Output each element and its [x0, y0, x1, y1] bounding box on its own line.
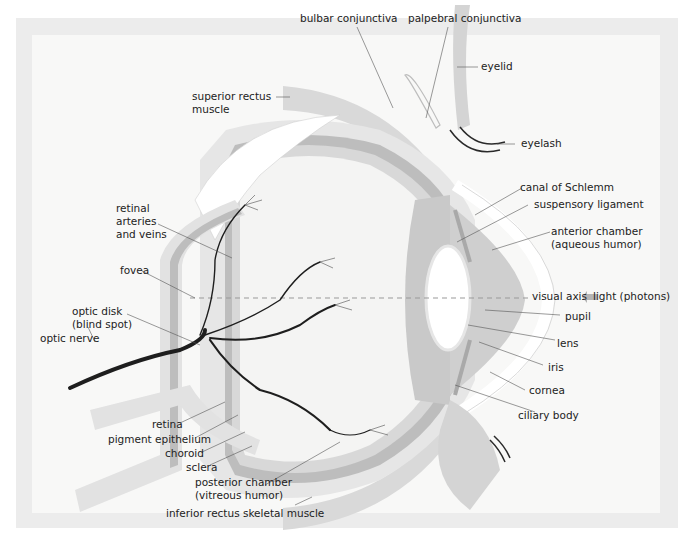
- label-optic-disk: optic disk (blind spot): [72, 305, 132, 331]
- eye-diagram: [0, 0, 693, 553]
- label-optic-nerve: optic nerve: [40, 332, 99, 345]
- label-pupil: pupil: [565, 310, 591, 323]
- label-retinal-vessels: retinal arteries and veins: [116, 202, 167, 241]
- label-bulbar-conjunctiva: bulbar conjunctiva: [300, 12, 398, 25]
- eyelash-upper: [450, 130, 500, 152]
- label-retina: retina: [152, 418, 183, 431]
- label-pigment-epithelium: pigment epithelium: [108, 433, 211, 446]
- label-light: light (photons): [593, 290, 670, 303]
- lower-eyelid: [438, 400, 500, 510]
- label-choroid: choroid: [165, 447, 204, 460]
- label-superior-rectus: superior rectus muscle: [192, 90, 271, 116]
- label-sclera: sclera: [186, 461, 217, 474]
- label-eyelash: eyelash: [521, 137, 562, 150]
- label-lens: lens: [557, 337, 579, 350]
- label-canal-of-schlemm: canal of Schlemm: [520, 181, 614, 194]
- label-eyelid: eyelid: [481, 60, 513, 73]
- label-cornea: cornea: [529, 384, 565, 397]
- label-suspensory-ligament: suspensory ligament: [534, 198, 644, 211]
- label-ciliary-body: ciliary body: [518, 409, 579, 422]
- label-fovea: fovea: [120, 264, 149, 277]
- label-iris: iris: [548, 361, 564, 374]
- label-visual-axis: visual axis: [532, 290, 587, 303]
- label-palpebral-conjunctiva: palpebral conjunctiva: [408, 12, 521, 25]
- label-inferior-rectus: inferior rectus skeletal muscle: [166, 507, 324, 520]
- label-posterior-chamber: posterior chamber (vitreous humor): [195, 476, 292, 502]
- label-anterior-chamber: anterior chamber (aqueous humor): [551, 225, 643, 251]
